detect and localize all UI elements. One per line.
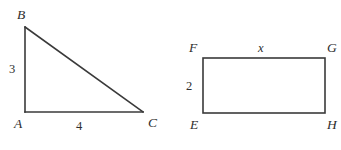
vertex-label-f: F: [189, 41, 197, 55]
figure-canvas: [0, 0, 341, 150]
side-measure-fg: x: [258, 42, 264, 55]
segment-bc-hypotenuse: [25, 27, 143, 112]
side-measure-ac: 4: [76, 120, 82, 133]
triangle-shape: [25, 27, 143, 112]
vertex-label-c: C: [148, 116, 157, 130]
geometry-figure: B A C 3 4 F G E H x 2: [0, 0, 341, 150]
vertex-label-b: B: [17, 8, 25, 22]
vertex-label-h: H: [327, 118, 337, 132]
rectangle-shape: [203, 58, 325, 113]
side-measure-ab: 3: [9, 63, 15, 76]
vertex-label-e: E: [190, 118, 198, 132]
vertex-label-g: G: [327, 41, 337, 55]
rectangle-efgh-outline: [203, 58, 325, 113]
side-measure-fe: 2: [186, 80, 192, 93]
vertex-label-a: A: [14, 117, 22, 131]
